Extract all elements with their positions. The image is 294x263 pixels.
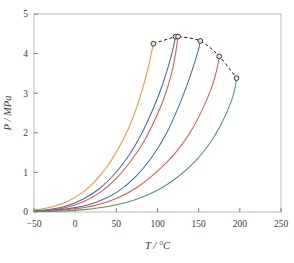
y-tick-label: 2: [23, 128, 28, 138]
x-tick-label: 100: [150, 219, 165, 229]
figure-container: −50050100150200250012345T / °CP / MPa: [0, 0, 294, 263]
x-tick-label: 250: [274, 219, 289, 229]
critical-point-marker: [151, 41, 156, 46]
y-axis-label: P / MPa: [2, 96, 13, 132]
y-tick-label: 5: [23, 9, 28, 19]
x-tick-label: 0: [73, 219, 78, 229]
critical-point-marker: [198, 39, 203, 44]
x-tick-label: −50: [27, 219, 42, 229]
vapor-pressure-curve-4: [34, 41, 200, 211]
critical-locus: [153, 36, 236, 78]
critical-point-marker: [176, 34, 181, 39]
x-tick-label: 200: [233, 219, 248, 229]
vapor-pressure-curve-2: [34, 37, 176, 211]
y-tick-label: 3: [23, 89, 28, 99]
vapor-pressure-curve-1: [34, 44, 153, 210]
y-tick-label: 0: [23, 207, 28, 217]
y-tick-label: 4: [23, 49, 28, 59]
critical-point-marker: [217, 54, 222, 59]
vapor-pressure-curve-3: [34, 37, 178, 212]
critical-point-marker: [234, 76, 239, 81]
x-tick-label: 50: [112, 219, 122, 229]
y-tick-label: 1: [23, 168, 28, 178]
chart-canvas: −50050100150200250012345T / °CP / MPa: [0, 0, 294, 263]
vapor-pressure-curve-5: [34, 56, 219, 211]
x-axis-label: T / °C: [145, 240, 171, 251]
x-tick-label: 150: [192, 219, 207, 229]
